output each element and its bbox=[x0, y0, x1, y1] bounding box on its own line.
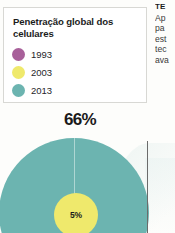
legend-swatch-circle-icon bbox=[12, 84, 25, 97]
inner-bubble-2003: 5% bbox=[54, 193, 98, 233]
outer-bubble-value-label: 66% bbox=[52, 110, 108, 130]
bubble-chart: 66% 5% bbox=[0, 105, 175, 233]
article-body: Ap pa est tec ava bbox=[155, 13, 175, 65]
article-line: pa bbox=[155, 23, 175, 33]
legend-swatch-circle-icon bbox=[12, 48, 25, 61]
article-line: Ap bbox=[155, 13, 175, 23]
legend-items: 1993 2003 2013 bbox=[12, 46, 142, 100]
infographic-page: Penetração global dos celulares 1993 200… bbox=[0, 0, 175, 233]
legend-item-label: 1993 bbox=[31, 48, 52, 61]
article-heading: TE bbox=[155, 2, 175, 12]
legend-swatch-circle-icon bbox=[12, 66, 25, 79]
legend-item-1993[interactable]: 1993 bbox=[12, 46, 142, 63]
article-line: ava bbox=[155, 55, 175, 65]
legend-item-2003[interactable]: 2003 bbox=[12, 64, 142, 81]
legend-item-label: 2003 bbox=[31, 66, 52, 79]
article-line: tec bbox=[155, 44, 175, 54]
callout-leader-line-vertical bbox=[147, 141, 148, 233]
article-column: TE Ap pa est tec ava bbox=[155, 2, 175, 65]
legend-title: Penetração global dos celulares bbox=[13, 16, 139, 39]
legend-item-2013[interactable]: 2013 bbox=[12, 82, 142, 99]
legend-item-label: 2013 bbox=[31, 84, 52, 97]
legend-panel: Penetração global dos celulares 1993 200… bbox=[3, 7, 147, 103]
article-line: est bbox=[155, 34, 175, 44]
inner-bubble-value-label: 5% bbox=[70, 210, 82, 220]
